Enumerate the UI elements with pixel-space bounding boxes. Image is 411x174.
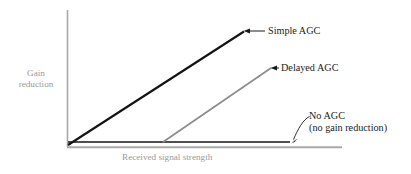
delayed-agc-callout-label: Delayed AGC [281, 62, 338, 74]
no-agc-callout-line1: No AGC [309, 110, 387, 122]
no-agc-arrow-head-icon [291, 139, 297, 144]
y-axis-label-line2: reduction [8, 79, 64, 90]
no-agc-callout-line2: (no gain reduction) [309, 122, 387, 134]
delayed-agc-curve [163, 68, 271, 142]
no-agc-callout-label: No AGC (no gain reduction) [309, 110, 387, 134]
y-axis-label-line1: Gain [8, 68, 64, 79]
simple-agc-curve [68, 32, 244, 146]
delayed-agc-arrow-icon [271, 65, 278, 70]
simple-agc-arrow-icon [244, 28, 251, 33]
x-axis-label: Received signal strength [122, 152, 212, 163]
y-axis-label: Gain reduction [8, 68, 64, 90]
simple-agc-callout-label: Simple AGC [268, 25, 320, 37]
no-agc-leader-line [294, 117, 310, 140]
agc-gain-reduction-figure: Gain reduction Received signal strength … [0, 0, 411, 174]
